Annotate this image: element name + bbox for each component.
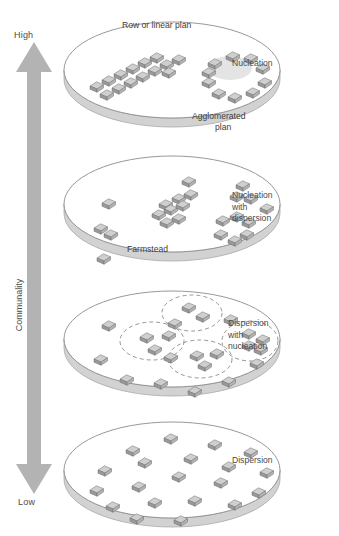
inner-label: Farmstead [127,244,168,255]
panel-dispersion-with-nucleation: Dispersionwithnucleation [52,275,292,409]
panel-dispersion: Dispersion [52,406,292,536]
inner-label: Row or linear plan [122,20,191,31]
panel-caption: Dispersion [232,455,273,467]
inner-label: Agglomerated [192,111,246,122]
axis-high-label: High [14,30,33,40]
communality-arrow-icon [14,42,54,494]
inner-label: plan [215,122,231,133]
panel-nucleation: Row or linear planAgglomeratedplanNuclea… [52,6,292,140]
building-icon [97,254,111,264]
panel-caption: Nucleationwithdispersion [232,190,273,225]
panel-nucleation-with-dispersion: FarmsteadNucleationwithdispersion [52,140,292,274]
axis-low-label: Low [18,497,35,507]
diagram-canvas: High Low Communality Row or linear planA… [0,0,339,536]
disk-platter [52,406,292,536]
panel-caption: Nucleation [232,58,273,70]
panel-caption: Dispersionwithnucleation [228,318,269,353]
